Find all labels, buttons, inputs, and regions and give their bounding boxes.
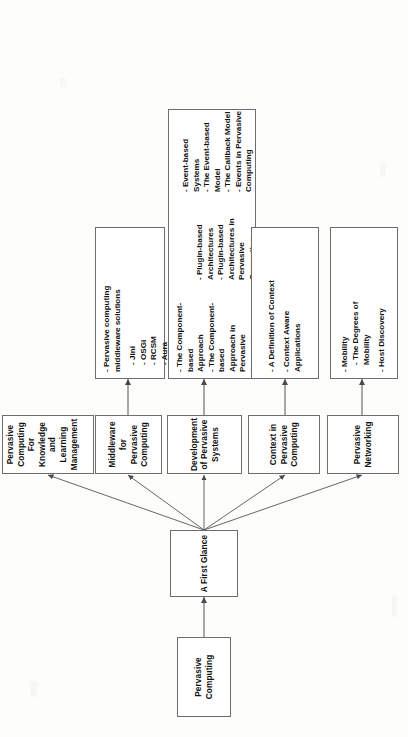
- detail-item: - Pervasive computing middleware solutio…: [102, 234, 123, 372]
- node-label: A First Glance: [199, 535, 210, 592]
- detail-item: - The Degrees of Mobility: [351, 234, 372, 372]
- detail-group: - Context Aware Applications: [282, 234, 303, 372]
- detail-item: - A Definition of Context: [267, 234, 278, 372]
- detail-item: - Mobility: [340, 234, 351, 372]
- detail-item: - The Callback Model: [223, 104, 234, 192]
- node-branch-knowledge-learning-management[interactable]: Pervasive Computing For Knowledge and Le…: [2, 415, 94, 474]
- diagram-canvas: Pervasive Computing A First Glance Perva…: [0, 0, 408, 737]
- node-label: Pervasive Computing For Knowledge and Le…: [5, 419, 79, 471]
- detail-column: - Event-based Systems - The Event-based …: [175, 104, 259, 192]
- node-branch-networking[interactable]: Pervasive Networking: [327, 415, 399, 474]
- detail-item: - The Event-based Model: [202, 104, 223, 192]
- detail-group: - A Definition of Context: [267, 234, 278, 372]
- scan-artifact: [60, 78, 66, 87]
- detail-item: - Event-based Systems: [181, 104, 202, 192]
- detail-item: - Events in Pervasive Computing: [234, 104, 255, 192]
- scan-artifact: [392, 595, 397, 617]
- detail-column: - Plugin-based Architectures - Plugin-ba…: [175, 202, 259, 280]
- rotated-diagram-wrapper: Pervasive Computing A First Glance Perva…: [0, 0, 408, 737]
- detail-box-networking: - Mobility - The Degrees of Mobility - H…: [330, 227, 398, 379]
- detail-box-middleware: - Pervasive computing middleware solutio…: [95, 227, 165, 379]
- node-label: Middleware for Pervasive Computing: [107, 419, 149, 470]
- node-branch-middleware[interactable]: Middleware for Pervasive Computing: [95, 415, 162, 474]
- detail-group: - Pervasive computing middleware solutio…: [102, 234, 123, 372]
- detail-item: - The Component-based Approach: [175, 290, 207, 372]
- node-hub-a-first-glance[interactable]: A First Glance: [170, 530, 238, 597]
- detail-box-development: - The Component-based Approach - The Com…: [168, 109, 256, 379]
- node-branch-context[interactable]: Context in Pervasive Computing: [248, 415, 320, 474]
- detail-group: - Host Discovery: [377, 234, 388, 372]
- detail-item: - Plugin-based Architectures: [195, 202, 216, 280]
- node-label: Pervasive Networking: [352, 419, 373, 470]
- detail-item: - Jini: [128, 234, 139, 365]
- detail-group: - Mobility - The Degrees of Mobility: [340, 234, 372, 372]
- node-label: Context in Pervasive Computing: [268, 419, 300, 470]
- node-label: Development of Pervasive Systems: [189, 418, 221, 471]
- detail-group: - Plugin-based Architectures - Plugin-ba…: [195, 202, 258, 280]
- node-root-pervasive-computing[interactable]: Pervasive Computing: [177, 637, 231, 717]
- detail-box-context: - A Definition of Context - Context Awar…: [251, 227, 319, 379]
- scan-artifact: [380, 163, 386, 177]
- node-branch-development[interactable]: Development of Pervasive Systems: [167, 415, 242, 474]
- detail-column: - The Component-based Approach - The Com…: [175, 290, 259, 372]
- detail-group: - Event-based Systems - The Event-based …: [181, 104, 255, 192]
- detail-item: - RCSM: [149, 234, 160, 365]
- scan-artifact: [30, 681, 37, 697]
- detail-group: - The Component-based Approach - The Com…: [175, 290, 259, 372]
- detail-item: - Host Discovery: [377, 234, 388, 372]
- detail-item: - OSGi: [139, 234, 150, 365]
- detail-item: - Context Aware Applications: [282, 234, 303, 372]
- node-label: Pervasive Computing: [193, 641, 214, 713]
